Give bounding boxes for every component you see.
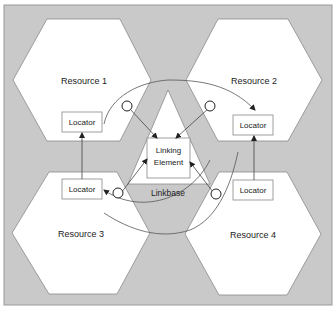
arc-node-1	[122, 101, 132, 111]
resource-1-label: Resource 1	[61, 76, 107, 86]
resource-3-locator-label: Locator	[69, 185, 96, 194]
arc-node-3	[113, 188, 123, 198]
resource-4-label: Resource 4	[230, 230, 276, 240]
arc-node-4	[211, 189, 221, 199]
resource-1-locator-label: Locator	[69, 118, 96, 127]
resource-2-locator-label: Locator	[240, 121, 267, 130]
resource-4-locator-label: Locator	[240, 186, 267, 195]
linkbase-label: Linkbase	[151, 188, 185, 198]
linking-element-label-line2: Element	[154, 158, 184, 167]
linking-element-label-line1: Linking	[156, 146, 181, 155]
arc-node-2	[205, 101, 215, 111]
resource-2-label: Resource 2	[231, 76, 277, 86]
resource-3-label: Resource 3	[58, 229, 104, 239]
xlink-linkbase-diagram: Resource 1 Resource 2 Resource 3 Resourc…	[0, 0, 336, 312]
